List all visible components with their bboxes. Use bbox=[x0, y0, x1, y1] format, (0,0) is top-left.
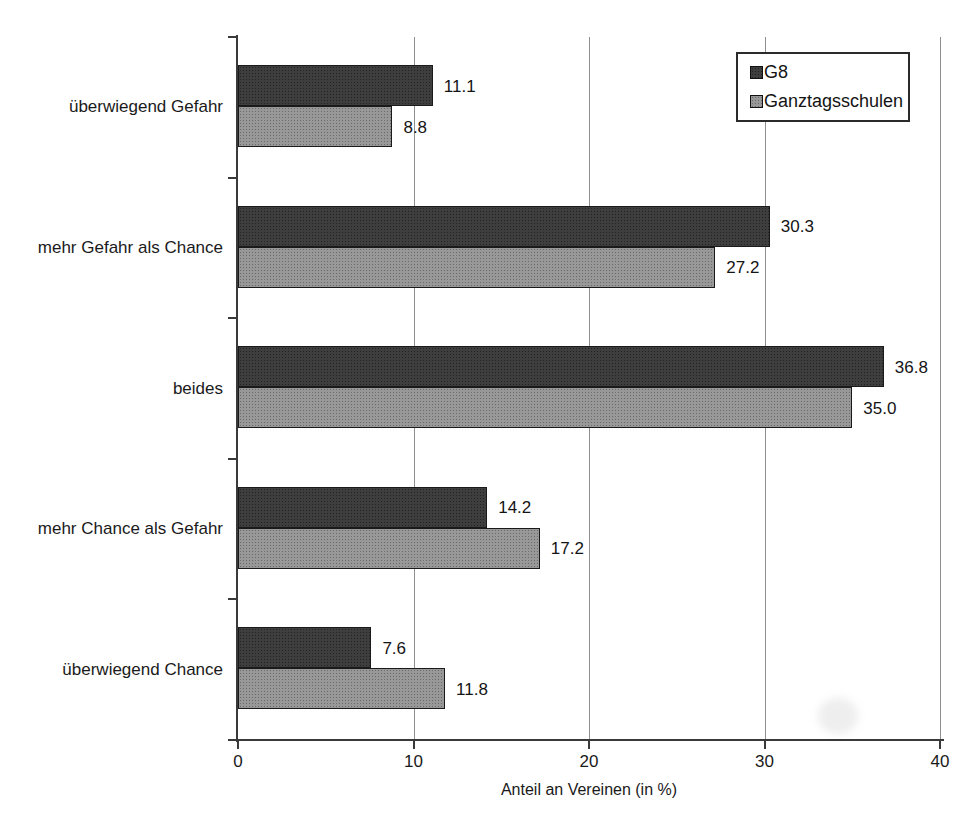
category-label: überwiegend Chance bbox=[62, 660, 223, 680]
bar-value-label: 17.2 bbox=[551, 540, 584, 557]
x-tick-label: 20 bbox=[580, 752, 599, 772]
gridline-40 bbox=[940, 37, 941, 740]
bar-ganztagsschulen bbox=[238, 106, 392, 147]
bar-value-label: 14.2 bbox=[498, 499, 531, 516]
bar-g8 bbox=[238, 627, 371, 668]
bar-ganztagsschulen bbox=[238, 387, 852, 428]
bar-value-label: 8.8 bbox=[403, 118, 427, 135]
category-label: mehr Gefahr als Chance bbox=[38, 238, 223, 258]
bar-value-label: 27.2 bbox=[726, 259, 759, 276]
legend-swatch-ganztagsschulen-icon bbox=[750, 95, 763, 108]
x-tick-label: 10 bbox=[404, 752, 423, 772]
category-label: beides bbox=[173, 379, 223, 399]
category-label: überwiegend Gefahr bbox=[69, 97, 223, 117]
scan-smudge bbox=[818, 698, 858, 734]
y-axis-tick bbox=[228, 36, 237, 38]
bar-g8 bbox=[238, 206, 770, 247]
plot-area: 11.18.830.327.236.835.014.217.27.611.8 bbox=[238, 37, 940, 740]
x-axis-tick bbox=[764, 741, 766, 749]
x-axis-tick bbox=[588, 741, 590, 749]
bar-value-label: 7.6 bbox=[382, 639, 406, 656]
category-label: mehr Chance als Gefahr bbox=[38, 519, 223, 539]
bar-value-label: 35.0 bbox=[863, 399, 896, 416]
y-axis-tick bbox=[228, 177, 237, 179]
bar-g8 bbox=[238, 65, 433, 106]
y-axis-tick bbox=[228, 317, 237, 319]
legend-label-ganztagsschulen: Ganztagsschulen bbox=[764, 91, 903, 112]
legend-swatch-g8-icon bbox=[750, 66, 763, 79]
legend-label-g8: G8 bbox=[764, 62, 788, 83]
x-axis-tick bbox=[939, 741, 941, 749]
x-axis-tick bbox=[237, 741, 239, 749]
y-axis-tick bbox=[228, 598, 237, 600]
legend-item-g8: G8 bbox=[750, 62, 908, 83]
bar-value-label: 11.8 bbox=[456, 680, 488, 697]
bar-g8 bbox=[238, 487, 487, 528]
bar-ganztagsschulen bbox=[238, 528, 540, 569]
bar-value-label: 36.8 bbox=[895, 358, 928, 375]
x-axis-line bbox=[230, 739, 944, 741]
bar-value-label: 11.1 bbox=[444, 77, 476, 94]
bar-ganztagsschulen bbox=[238, 247, 715, 288]
bar-ganztagsschulen bbox=[238, 668, 445, 709]
legend-item-ganztagsschulen: Ganztagsschulen bbox=[750, 91, 908, 112]
x-tick-label: 30 bbox=[755, 752, 774, 772]
y-axis-tick bbox=[228, 739, 237, 741]
x-tick-label: 0 bbox=[233, 752, 242, 772]
legend: G8 Ganztagsschulen bbox=[736, 52, 910, 122]
x-axis-title: Anteil an Vereinen (in %) bbox=[501, 781, 677, 799]
y-axis-line bbox=[236, 35, 238, 742]
y-axis-tick bbox=[228, 458, 237, 460]
bar-chart: 11.18.830.327.236.835.014.217.27.611.8 A… bbox=[0, 0, 973, 836]
x-axis-tick bbox=[413, 741, 415, 749]
bar-value-label: 30.3 bbox=[781, 218, 814, 235]
x-tick-label: 40 bbox=[931, 752, 950, 772]
bar-g8 bbox=[238, 346, 884, 387]
